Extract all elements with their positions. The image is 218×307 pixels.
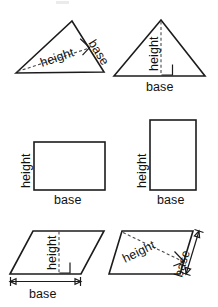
parallelogram-horizontal-base-base-label: base	[29, 287, 57, 301]
figure-canvas: height base height base height base heig…	[0, 0, 218, 307]
triangle-horizontal-base-height-label: height	[147, 36, 161, 71]
triangle-slanted-base-base-label: base	[85, 37, 111, 68]
parallelogram-horizontal-base-dimension-arrow	[10, 277, 81, 286]
rectangle-wide-base-label: base	[54, 193, 82, 207]
shape-triangle-slanted-base: height base	[16, 21, 112, 73]
triangle-horizontal-base-base-label: base	[146, 80, 174, 94]
rectangle-tall-outline	[150, 120, 196, 190]
rectangle-wide-outline	[34, 142, 105, 190]
triangle-slanted-base-height-label: height	[38, 45, 76, 70]
parallelogram-slanted-base-height-label: height	[120, 238, 158, 266]
geometry-figure: height base height base height base heig…	[0, 0, 218, 307]
parallelogram-horizontal-base-height-label: height	[45, 235, 59, 270]
shape-rectangle-tall: height base	[135, 120, 196, 207]
parallelogram-horizontal-base-right-angle-icon	[60, 263, 71, 274]
rectangle-tall-height-label: height	[135, 153, 149, 188]
rectangle-tall-base-label: base	[157, 193, 185, 207]
shape-triangle-horizontal-base: height base	[114, 20, 205, 94]
triangle-horizontal-base-right-angle-icon	[162, 65, 173, 76]
shape-parallelogram-horizontal-base: height base	[10, 231, 104, 301]
shape-parallelogram-slanted-base: height base	[109, 230, 204, 279]
shape-rectangle-wide: height base	[19, 142, 105, 207]
rectangle-wide-height-label: height	[19, 153, 33, 188]
